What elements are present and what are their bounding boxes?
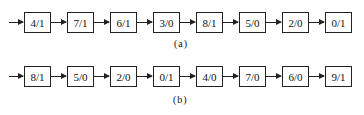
node: 2/0	[110, 66, 137, 87]
arrow	[137, 22, 152, 23]
caption-a: (a)	[174, 38, 188, 49]
arrow	[51, 76, 66, 77]
arrow	[51, 22, 66, 23]
arrow	[309, 76, 324, 77]
arrow	[266, 76, 281, 77]
entry-arrow	[9, 76, 23, 77]
arrow	[94, 22, 109, 23]
node: 0/1	[325, 12, 352, 33]
node: 7/1	[67, 12, 94, 33]
arrow	[266, 22, 281, 23]
node: 3/0	[153, 12, 180, 33]
node: 8/1	[196, 12, 223, 33]
node: 0/1	[153, 66, 180, 87]
node: 9/1	[325, 66, 352, 87]
arrow	[180, 22, 195, 23]
arrow	[137, 76, 152, 77]
diagram-b: 8/1 5/0 2/0 0/1 4/0 7/0 6/0 9/1	[0, 66, 364, 90]
arrow	[223, 76, 238, 77]
node: 6/1	[110, 12, 137, 33]
node: 5/0	[239, 12, 266, 33]
diagram-a: 4/1 7/1 6/1 3/0 8/1 5/0 2/0 0/1	[0, 12, 364, 36]
arrow	[309, 22, 324, 23]
arrow	[223, 22, 238, 23]
entry-arrow	[9, 22, 23, 23]
node: 4/0	[196, 66, 223, 87]
node: 7/0	[239, 66, 266, 87]
node: 6/0	[282, 66, 309, 87]
node: 5/0	[67, 66, 94, 87]
arrow	[180, 76, 195, 77]
arrow	[94, 76, 109, 77]
caption-b: (b)	[173, 94, 188, 105]
node: 4/1	[24, 12, 51, 33]
node: 8/1	[24, 66, 51, 87]
node: 2/0	[282, 12, 309, 33]
